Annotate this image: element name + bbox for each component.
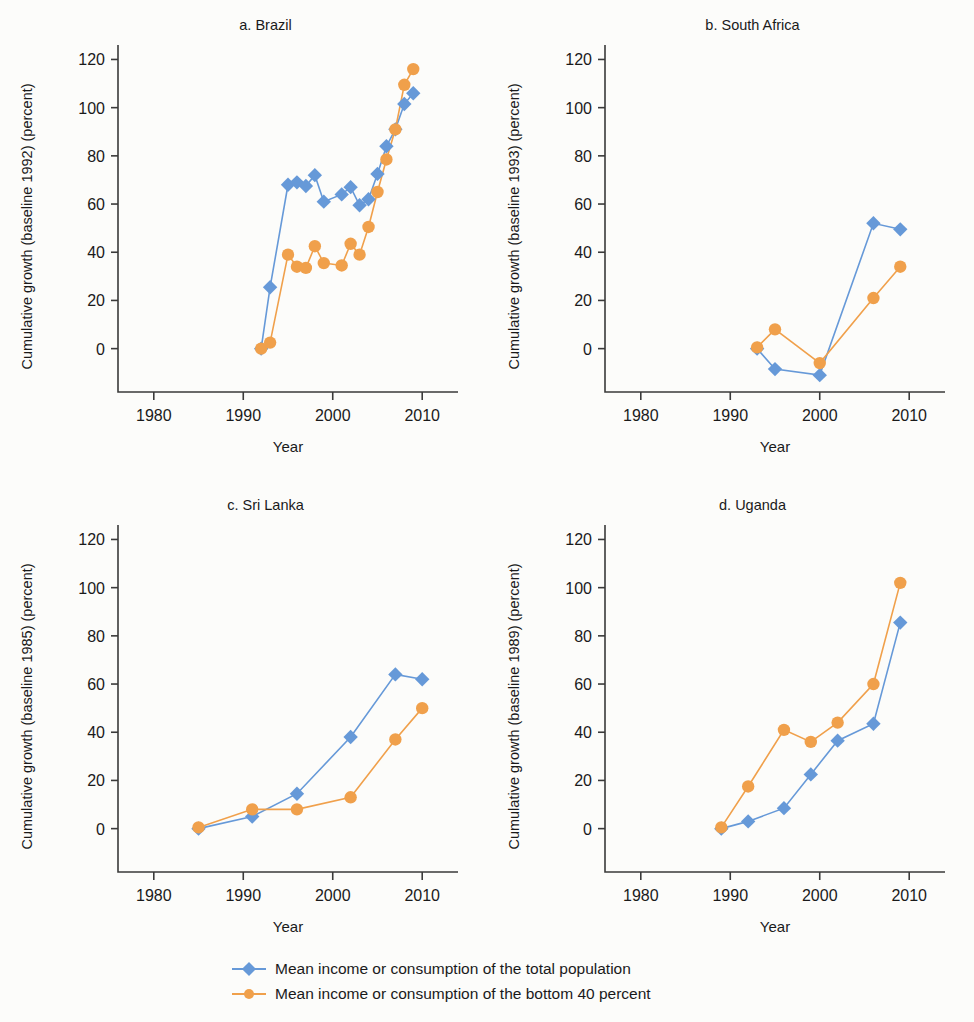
y-tick-label: 40 — [87, 724, 105, 741]
data-point-circle — [751, 341, 763, 353]
y-tick-label: 80 — [574, 148, 592, 165]
data-point-circle — [192, 821, 204, 833]
x-axis-label: Year — [760, 918, 790, 935]
y-tick-label: 100 — [565, 580, 592, 597]
data-point-circle — [282, 248, 294, 260]
axis-spines — [605, 525, 945, 872]
chart-panel-south-africa: b. South Africa0204060801001201980199020… — [487, 0, 974, 480]
data-point-diamond — [317, 194, 331, 208]
legend-label-total-population: Mean income or consumption of the total … — [275, 960, 631, 978]
legend-label-bottom-40: Mean income or consumption of the bottom… — [275, 985, 651, 1003]
y-tick-label: 20 — [87, 772, 105, 789]
data-point-diamond — [813, 368, 827, 382]
series-markers-total-population — [191, 667, 429, 836]
x-axis-label: Year — [273, 918, 303, 935]
data-point-diamond — [893, 222, 907, 236]
data-point-circle — [344, 791, 356, 803]
data-point-circle — [769, 323, 781, 335]
panel-title-a: a. Brazil — [239, 17, 291, 33]
x-tick-label: 2010 — [891, 887, 927, 904]
series-markers-bottom-40 — [192, 702, 428, 834]
x-tick-label: 2000 — [315, 887, 351, 904]
x-tick-label: 1980 — [623, 887, 659, 904]
data-point-circle — [344, 238, 356, 250]
y-tick-label: 0 — [583, 341, 592, 358]
data-point-circle — [362, 221, 374, 233]
chart-legend: Mean income or consumption of the total … — [0, 952, 974, 1022]
data-point-diamond — [370, 167, 384, 181]
y-tick-label: 60 — [574, 196, 592, 213]
legend-item-total-population: Mean income or consumption of the total … — [232, 956, 651, 981]
data-point-diamond — [866, 216, 880, 230]
series-line-total-population — [199, 674, 423, 828]
panel-title-c: c. Sri Lanka — [227, 497, 304, 513]
x-tick-label: 2010 — [404, 407, 440, 424]
data-point-circle — [407, 63, 419, 75]
chart-panel-uganda: d. Uganda0204060801001201980199020002010… — [487, 480, 974, 960]
data-point-diamond — [415, 672, 429, 686]
data-point-circle — [246, 803, 258, 815]
y-tick-label: 120 — [78, 531, 105, 548]
y-tick-label: 80 — [87, 628, 105, 645]
series-markers-total-population — [750, 216, 908, 382]
data-point-circle — [894, 260, 906, 272]
y-tick-label: 0 — [583, 821, 592, 838]
y-tick-label: 60 — [574, 676, 592, 693]
data-point-circle — [742, 780, 754, 792]
x-axis-label: Year — [273, 438, 303, 455]
chart-svg-d: d. Uganda0204060801001201980199020002010… — [487, 480, 974, 960]
y-tick-label: 120 — [565, 51, 592, 68]
x-tick-label: 2010 — [404, 887, 440, 904]
data-point-circle — [318, 257, 330, 269]
y-tick-label: 80 — [574, 628, 592, 645]
y-tick-label: 100 — [78, 100, 105, 117]
x-tick-label: 1980 — [136, 407, 172, 424]
y-axis-label: Cumulative growth (baseline 1992) (perce… — [19, 83, 35, 369]
y-tick-label: 0 — [96, 341, 105, 358]
y-tick-label: 120 — [565, 531, 592, 548]
data-point-diamond — [804, 767, 818, 781]
x-tick-label: 1990 — [225, 887, 261, 904]
x-axis-label: Year — [760, 438, 790, 455]
data-point-circle — [805, 736, 817, 748]
y-axis-label: Cumulative growth (baseline 1993) (perce… — [506, 83, 522, 369]
data-point-diamond — [893, 615, 907, 629]
y-tick-label: 60 — [87, 196, 105, 213]
data-point-circle — [309, 240, 321, 252]
data-point-circle — [894, 577, 906, 589]
data-point-circle — [398, 79, 410, 91]
chart-panel-brazil: a. Brazil0204060801001201980199020002010… — [0, 0, 487, 480]
data-point-diamond — [263, 280, 277, 294]
data-point-circle — [416, 702, 428, 714]
data-point-circle — [814, 357, 826, 369]
chart-svg-a: a. Brazil0204060801001201980199020002010… — [0, 0, 487, 480]
x-tick-label: 1980 — [623, 407, 659, 424]
legend-marker-circle-icon — [232, 985, 266, 1003]
y-tick-label: 60 — [87, 676, 105, 693]
data-point-circle — [715, 821, 727, 833]
x-tick-label: 1990 — [712, 887, 748, 904]
x-tick-label: 2010 — [891, 407, 927, 424]
data-point-circle — [335, 259, 347, 271]
y-axis-label: Cumulative growth (baseline 1985) (perce… — [19, 563, 35, 849]
y-tick-label: 100 — [78, 580, 105, 597]
x-tick-label: 1980 — [136, 887, 172, 904]
y-tick-label: 40 — [87, 244, 105, 261]
y-tick-label: 40 — [574, 244, 592, 261]
data-point-circle — [389, 123, 401, 135]
chart-svg-c: c. Sri Lanka0204060801001201980199020002… — [0, 480, 487, 960]
y-tick-label: 100 — [565, 100, 592, 117]
chart-panel-sri-lanka: c. Sri Lanka0204060801001201980199020002… — [0, 480, 487, 960]
data-point-circle — [264, 336, 276, 348]
data-point-circle — [291, 803, 303, 815]
y-tick-label: 40 — [574, 724, 592, 741]
data-point-diamond — [741, 814, 755, 828]
data-point-circle — [867, 292, 879, 304]
y-tick-label: 80 — [87, 148, 105, 165]
data-point-diamond — [777, 801, 791, 815]
series-line-bottom-40 — [199, 708, 423, 827]
legend-items: Mean income or consumption of the total … — [232, 956, 651, 1006]
y-axis-label: Cumulative growth (baseline 1989) (perce… — [506, 563, 522, 849]
x-tick-label: 1990 — [712, 407, 748, 424]
axis-spines — [118, 525, 458, 872]
